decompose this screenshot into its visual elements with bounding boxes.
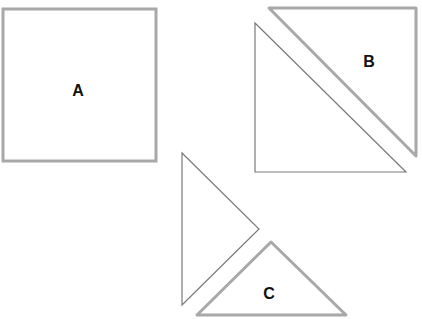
label-c: C bbox=[263, 285, 275, 302]
diagram-canvas: A B C bbox=[0, 0, 422, 319]
label-b: B bbox=[363, 53, 375, 70]
triangle-b bbox=[269, 8, 416, 156]
triangle-unlabeled-small bbox=[182, 153, 259, 305]
triangle-unlabeled-large bbox=[255, 23, 406, 172]
triangle-c bbox=[197, 242, 346, 315]
label-a: A bbox=[72, 82, 84, 99]
